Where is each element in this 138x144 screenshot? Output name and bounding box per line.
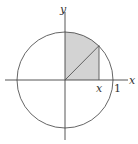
one-marker-label: 1 [114, 82, 121, 95]
y-axis-label: y [59, 3, 67, 16]
shaded-region [65, 32, 99, 80]
x-axis-label: x [129, 74, 136, 87]
x-marker-label: x [96, 82, 103, 95]
unit-circle-diagram: y x x 1 [0, 0, 138, 144]
